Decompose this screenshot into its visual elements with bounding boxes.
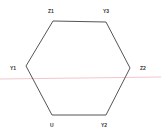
hexagon-shape xyxy=(26,21,130,115)
vertex-label-u: U xyxy=(50,123,54,128)
vertex-label-z1: Z1 xyxy=(48,9,54,14)
vertex-label-y3: Y3 xyxy=(103,9,109,14)
vertex-label-z2: Z2 xyxy=(140,66,146,71)
vertex-label-y2: Y2 xyxy=(101,123,107,128)
hexagon-diagram xyxy=(0,0,161,138)
scan-line xyxy=(0,77,161,79)
vertex-label-y1: Y1 xyxy=(10,66,16,71)
